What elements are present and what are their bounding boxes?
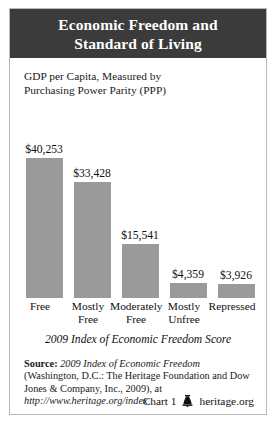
category-label: Free [14, 300, 66, 313]
bar [170, 283, 207, 298]
bar-column: $4,359 [166, 98, 210, 298]
bar-column: $3,926 [214, 98, 258, 298]
category-label-line: Free [62, 313, 114, 326]
bar-value-label: $4,359 [172, 268, 204, 281]
category-label-line: Unfree [158, 313, 210, 326]
category-label-line: Repressed [206, 300, 258, 313]
category-label: Repressed [206, 300, 258, 313]
chart-number-label: Chart 1 [143, 395, 177, 407]
site-name-label: heritage.org [199, 395, 254, 407]
bar-value-label: $33,428 [73, 167, 111, 180]
bar-value-label: $40,253 [25, 143, 63, 156]
category-axis-labels: FreeMostlyFreeModeratelyFreeMostlyUnfree… [24, 298, 254, 328]
chart-subtitle-line-1: GDP per Capita, Measured by [24, 69, 266, 83]
source-publisher: (Washington, D.C.: The Heritage Foundati… [24, 370, 250, 394]
category-label-line: Free [14, 300, 66, 313]
bar-column: $15,541 [118, 98, 162, 298]
chart-title-line-2: Standard of Living [74, 34, 202, 53]
category-label-line: Mostly [158, 300, 210, 313]
chart-header: Economic Freedom and Standard of Living [10, 9, 266, 58]
bar-chart-plot-area: $40,253$33,428$15,541$4,359$3,926 [24, 98, 254, 298]
chart-title-line-1: Economic Freedom and [58, 15, 217, 34]
chart-footer: Chart 1 heritage.org [143, 395, 254, 407]
category-label-line: Moderately [110, 300, 162, 313]
x-axis-caption: 2009 Index of Economic Freedom Score [10, 333, 266, 346]
bar-column: $33,428 [70, 98, 114, 298]
bar-column: $40,253 [22, 98, 66, 298]
source-url: http://www.heritage.org/index [24, 395, 148, 406]
category-label: ModeratelyFree [110, 300, 162, 327]
bar-value-label: $3,926 [220, 269, 252, 282]
source-title: 2009 Index of Economic Freedom [60, 358, 200, 369]
category-label: MostlyFree [62, 300, 114, 327]
category-label-line: Free [110, 313, 162, 326]
chart-body: GDP per Capita, Measured by Purchasing P… [10, 58, 266, 414]
category-label: MostlyUnfree [158, 300, 210, 327]
source-label: Source: [24, 358, 58, 369]
chart-subtitle: GDP per Capita, Measured by Purchasing P… [10, 58, 266, 98]
chart-subtitle-line-2: Purchasing Power Parity (PPP) [24, 83, 266, 97]
bar [122, 244, 159, 298]
bar-value-label: $15,541 [121, 229, 159, 242]
chart-card: Economic Freedom and Standard of Living … [9, 8, 267, 415]
bar [74, 182, 111, 298]
bar [218, 284, 255, 298]
liberty-bell-icon [182, 395, 193, 407]
bar [26, 158, 63, 298]
category-label-line: Mostly [62, 300, 114, 313]
